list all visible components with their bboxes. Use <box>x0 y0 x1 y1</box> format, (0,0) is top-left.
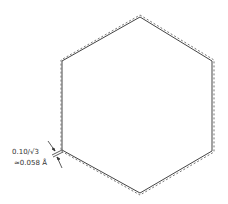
hexagon-solid-outline <box>62 17 212 193</box>
hexagon-diagram <box>0 0 228 204</box>
hexagon-dashed-outline <box>61 15 214 195</box>
dimension-label-value: ≈0.058 Å <box>14 160 47 167</box>
dimension-label-formula: 0.10/√3 <box>12 149 39 156</box>
